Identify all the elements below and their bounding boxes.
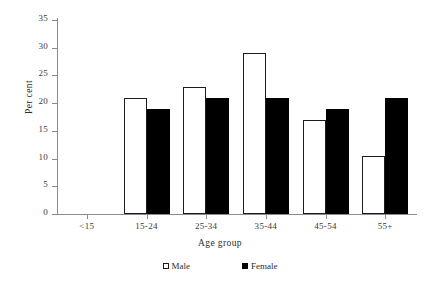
x-axis-tick-label: 45-54: [314, 221, 337, 231]
x-axis-tick-label: 15-24: [135, 221, 158, 231]
bar-male-55+: [362, 156, 385, 214]
y-axis-tick-label: 25: [39, 68, 48, 78]
y-axis-title: Per cent: [24, 80, 34, 114]
bar-female-45-54: [326, 109, 349, 214]
y-axis-tick-label: 0: [43, 207, 48, 217]
bar-male-45-54: [303, 120, 326, 214]
x-axis-tick-mark: [385, 215, 386, 219]
bar-female-35-44: [266, 98, 289, 214]
x-axis-tick-label: 25-34: [195, 221, 218, 231]
legend-item-female: Female: [242, 261, 278, 271]
x-axis-tick-mark: [266, 215, 267, 219]
y-axis-tick-label: 35: [39, 13, 48, 23]
y-axis-tick-label: 10: [39, 152, 48, 162]
y-axis-tick: 0: [52, 214, 57, 215]
x-axis-line: [57, 214, 417, 215]
x-axis-tick-label: <15: [79, 221, 94, 231]
bar-male-35-44: [243, 53, 266, 214]
bar-male-15-24: [124, 98, 147, 214]
bar-male-25-34: [183, 87, 206, 214]
x-axis-tick-mark: [87, 215, 88, 219]
legend-swatch-male-icon: [163, 263, 169, 269]
legend-label: Female: [251, 261, 278, 271]
bar-female-25-34: [206, 98, 229, 214]
plot-area: [57, 20, 415, 214]
x-axis-title: Age group: [0, 238, 440, 248]
x-axis-tick-label: 35-44: [255, 221, 278, 231]
legend-item-male: Male: [163, 261, 191, 271]
y-axis-tick-label: 5: [43, 179, 48, 189]
x-axis-tick-mark: [206, 215, 207, 219]
x-axis-tick-label: 55+: [378, 221, 393, 231]
bar-female-55+: [385, 98, 408, 214]
x-axis-tick-mark: [147, 215, 148, 219]
bar-female-15-24: [147, 109, 170, 214]
y-axis-tick-label: 30: [39, 41, 48, 51]
bar-chart: 05101520253035 <1515-2425-3435-4445-5455…: [0, 0, 440, 291]
legend-swatch-female-icon: [242, 263, 248, 269]
y-axis-tick-label: 20: [39, 96, 48, 106]
legend-label: Male: [172, 261, 191, 271]
y-axis-tick-label: 15: [39, 124, 48, 134]
y-axis-tick-mark: [52, 214, 57, 215]
chart-legend: MaleFemale: [0, 261, 440, 271]
x-axis-tick-mark: [326, 215, 327, 219]
